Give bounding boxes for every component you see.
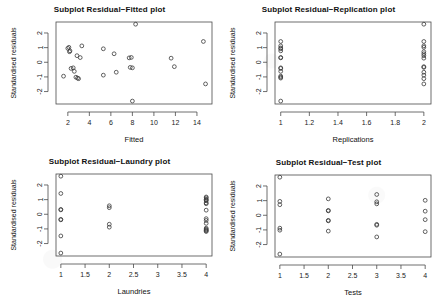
data-point: [134, 22, 138, 26]
y-axis-label: Standardised residuals: [229, 180, 236, 252]
x-tick-label: 3: [375, 272, 379, 279]
data-points: [279, 22, 426, 103]
data-point: [375, 235, 379, 239]
y-axis-label: Standardised residuals: [10, 27, 17, 99]
data-point: [80, 44, 84, 48]
y-tick-label: -1: [256, 227, 263, 233]
x-tick-label: 1: [279, 119, 283, 126]
y-tick-label: -1: [37, 226, 44, 232]
data-points: [278, 175, 427, 256]
data-point: [326, 229, 330, 233]
subplot-grid: Subplot Residual plots Subplot Residual−…: [0, 0, 438, 305]
y-tick-label: -1: [256, 74, 263, 80]
x-tick-label: 10: [150, 119, 158, 126]
y-tick-label: 1: [256, 199, 263, 203]
y-tick-label: -1: [37, 74, 44, 80]
y-tick-label: 2: [37, 183, 44, 187]
data-point: [279, 40, 283, 44]
x-tick-label: 1: [59, 271, 63, 278]
data-point: [114, 70, 118, 74]
x-axis-label: Replications: [333, 135, 374, 144]
data-point: [423, 209, 427, 213]
x-tick-label: 4: [204, 271, 208, 278]
y-tick-label: -2: [37, 88, 44, 94]
x-tick-label: 3.5: [396, 272, 406, 279]
data-point: [59, 174, 63, 178]
data-point: [375, 193, 379, 197]
y-tick-label: 0: [256, 60, 263, 64]
y-tick-label: 0: [37, 60, 44, 64]
y-tick-label: 1: [37, 46, 44, 50]
x-tick-label: 2: [422, 119, 426, 126]
x-tick-label: 4: [423, 272, 427, 279]
data-point: [169, 56, 173, 60]
y-tick-label: -2: [256, 88, 263, 94]
x-tick-label: 4: [87, 119, 91, 126]
data-point: [422, 40, 426, 44]
y-tick-label: -2: [37, 240, 44, 246]
x-tick-label: 2: [66, 119, 70, 126]
y-axis-label: Standardised residuals: [10, 179, 17, 251]
x-tick-label: 1.8: [390, 119, 400, 126]
data-point: [326, 197, 330, 201]
x-tick-label: 2: [107, 271, 111, 278]
x-tick-label: 8: [130, 119, 134, 126]
x-tick-label: 14: [193, 119, 201, 126]
plot-frame: [275, 175, 431, 257]
data-point: [59, 192, 63, 196]
y-axis: 210-1-2: [256, 184, 268, 248]
x-tick-label: 12: [172, 119, 180, 126]
x-axis-label: Fitted: [125, 135, 144, 144]
y-axis: 210-1-2: [37, 183, 49, 247]
x-axis-label: Tests: [344, 288, 362, 297]
data-point: [172, 65, 176, 69]
panel-residual-laundry: Subplot Residual−Laundry plot 11.522.533…: [0, 152, 219, 304]
y-tick-label: 1: [37, 198, 44, 202]
x-tick-label: 3.5: [177, 271, 187, 278]
data-point: [423, 230, 427, 234]
data-point: [422, 56, 426, 60]
data-point: [204, 208, 208, 212]
x-tick-label: 2: [326, 272, 330, 279]
panel-residual-test: Subplot Residual−Test plot 11.522.533.54…: [219, 153, 438, 305]
data-point: [423, 198, 427, 202]
data-point: [101, 47, 105, 51]
y-tick-label: 2: [256, 31, 263, 35]
y-axis: 210-1-2: [256, 31, 268, 95]
x-tick-label: 2.5: [348, 272, 358, 279]
data-point: [422, 82, 426, 86]
data-point: [278, 252, 282, 256]
x-tick-label: 1.2: [304, 119, 314, 126]
panel-residual-replication: Subplot Residual−Replication plot 11.21.…: [219, 0, 438, 152]
scatter-plot: 11.522.533.54210-1-2TestsStandardised re…: [219, 153, 438, 305]
x-tick-label: 1.5: [80, 271, 90, 278]
x-tick-label: 1.5: [299, 272, 309, 279]
x-axis: 2468101214: [66, 112, 201, 126]
x-axis: 11.522.533.54: [59, 264, 208, 278]
data-point: [201, 40, 205, 44]
x-tick-label: 1.4: [333, 119, 343, 126]
data-point: [279, 99, 283, 103]
scatter-plot: 11.21.41.61.82210-1-2ReplicationsStandar…: [219, 0, 438, 152]
y-tick-label: 0: [256, 213, 263, 217]
y-tick-label: 0: [37, 212, 44, 216]
data-points: [59, 174, 208, 255]
y-tick-label: 2: [256, 184, 263, 188]
x-axis-label: Laundries: [118, 287, 151, 296]
y-tick-label: 1: [256, 46, 263, 50]
data-point: [62, 74, 66, 78]
plot-area: 11.522.533.54210-1-2LaundriesStandardise…: [0, 152, 219, 305]
y-tick-label: 2: [37, 31, 44, 35]
data-point: [422, 22, 426, 26]
data-point: [423, 218, 427, 222]
data-point: [59, 251, 63, 255]
plot-frame: [56, 22, 212, 104]
data-points: [62, 22, 208, 103]
y-tick-label: -2: [256, 241, 263, 247]
plot-area: 11.21.41.61.82210-1-2ReplicationsStandar…: [219, 0, 438, 156]
scatter-plot: 2468101214210-1-2FittedStandardised resi…: [0, 0, 219, 152]
data-point: [112, 52, 116, 56]
data-point: [101, 73, 105, 77]
panel-residual-fitted: Subplot Residual−Fitted plot 24681012142…: [0, 0, 219, 152]
x-axis: 11.21.41.61.82: [279, 112, 426, 126]
